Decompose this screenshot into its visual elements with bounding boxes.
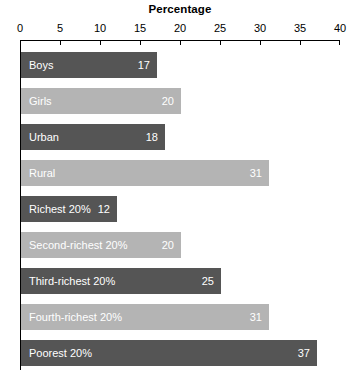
bar-value-label: 20 <box>162 232 174 258</box>
bar-category-label: Girls <box>29 88 52 114</box>
x-tick-mark <box>140 40 141 45</box>
x-tick-mark <box>220 40 221 45</box>
x-tick-mark <box>300 40 301 45</box>
x-tick-mark <box>60 40 61 45</box>
bar-value-label: 31 <box>250 304 262 330</box>
plot-area: Boys17Girls20Urban18Rural31Richest 20%12… <box>0 0 353 378</box>
bar-category-label: Second-richest 20% <box>29 232 127 258</box>
bar-category-label: Third-richest 20% <box>29 268 115 294</box>
bar-value-label: 25 <box>202 268 214 294</box>
bar-value-label: 20 <box>162 88 174 114</box>
x-tick-mark <box>100 40 101 45</box>
bar-category-label: Poorest 20% <box>29 340 92 366</box>
bar-category-label: Rural <box>29 160 55 186</box>
bar-row: Girls20 <box>21 88 181 114</box>
bar-chart: Percentage 0510152025303540 Boys17Girls2… <box>0 0 353 378</box>
bar-row: Poorest 20%37 <box>21 340 317 366</box>
bar-row: Urban18 <box>21 124 165 150</box>
bar-category-label: Fourth-richest 20% <box>29 304 122 330</box>
bar-row: Richest 20%12 <box>21 196 117 222</box>
bar-value-label: 37 <box>298 340 310 366</box>
bar-row: Third-richest 20%25 <box>21 268 221 294</box>
bar-row: Fourth-richest 20%31 <box>21 304 269 330</box>
bar-value-label: 12 <box>98 196 110 222</box>
bar-category-label: Urban <box>29 124 59 150</box>
bar-row: Second-richest 20%20 <box>21 232 181 258</box>
bar-category-label: Boys <box>29 52 53 78</box>
bar-value-label: 17 <box>138 52 150 78</box>
bar-category-label: Richest 20% <box>29 196 91 222</box>
bar-row: Boys17 <box>21 52 157 78</box>
x-tick-mark <box>260 40 261 45</box>
bar <box>21 160 269 186</box>
bar-row: Rural31 <box>21 160 269 186</box>
bar-value-label: 31 <box>250 160 262 186</box>
x-tick-mark <box>180 40 181 45</box>
bar-value-label: 18 <box>146 124 158 150</box>
